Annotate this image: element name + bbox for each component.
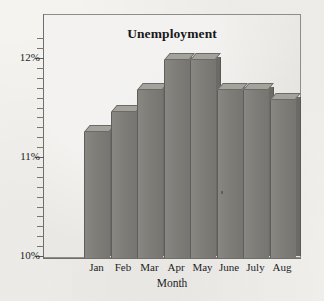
bar (270, 93, 295, 258)
bar (111, 105, 136, 258)
bar (164, 53, 189, 258)
bar-front-face (164, 60, 190, 258)
x-axis-label: Aug (262, 261, 303, 273)
bar-front-face (137, 90, 163, 258)
bar-series (0, 0, 324, 301)
bar-front-face (84, 132, 110, 258)
scan-speck (221, 191, 223, 194)
unemployment-bar-chart: Unemployment 12%11%10% JanFebMarAprMayJu… (0, 0, 324, 301)
bar (190, 53, 215, 258)
bar-front-face (270, 100, 296, 258)
bar (84, 125, 109, 258)
bar-top-face (270, 93, 301, 100)
x-axis-title: Month (43, 277, 301, 289)
bar-front-face (243, 90, 269, 258)
bar-front-face (111, 112, 137, 258)
bar (243, 83, 268, 258)
bar (137, 83, 162, 258)
bar-front-face (217, 90, 243, 258)
bar (217, 83, 242, 258)
bar-front-face (190, 60, 216, 258)
